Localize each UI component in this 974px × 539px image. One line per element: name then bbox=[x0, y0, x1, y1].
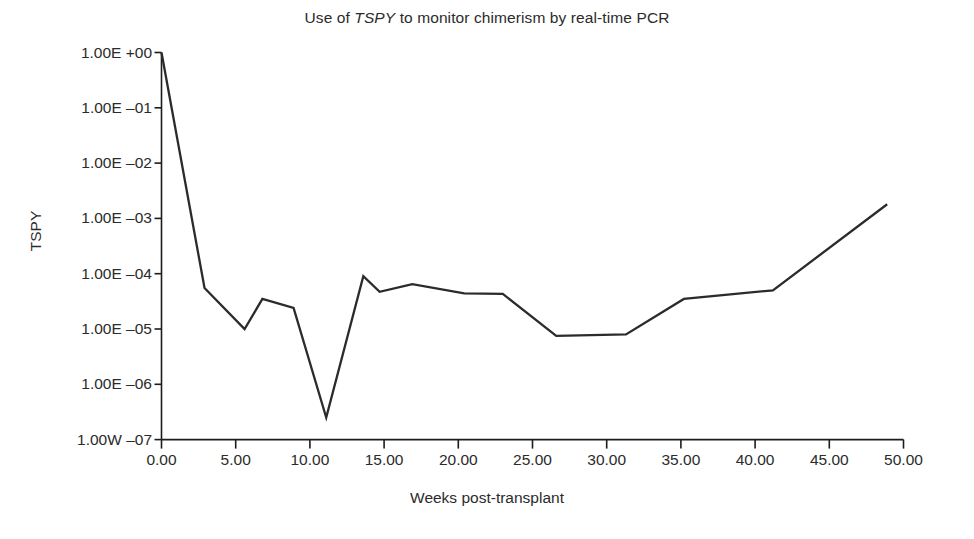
x-axis-tick-label: 50.00 bbox=[884, 451, 923, 469]
x-axis-tick-label: 40.00 bbox=[736, 451, 775, 469]
x-axis-title: Weeks post-transplant bbox=[0, 489, 974, 507]
x-axis-tick-label: 15.00 bbox=[365, 451, 404, 469]
figure-root: Use of TSPY to monitor chimerism by real… bbox=[0, 0, 974, 539]
x-axis-tick-label: 0.00 bbox=[146, 451, 176, 469]
y-axis-title: TSPY bbox=[27, 181, 45, 281]
x-axis-tick-label: 20.00 bbox=[439, 451, 478, 469]
x-axis-tick-label: 5.00 bbox=[221, 451, 251, 469]
x-axis-tick-label: 35.00 bbox=[661, 451, 700, 469]
x-axis-tick-label: 45.00 bbox=[810, 451, 849, 469]
x-axis-tick-labels: 0.005.0010.0015.0020.0025.0030.0035.0040… bbox=[0, 0, 974, 539]
x-axis-tick-label: 30.00 bbox=[587, 451, 626, 469]
x-axis-tick-label: 25.00 bbox=[513, 451, 552, 469]
x-axis-tick-label: 10.00 bbox=[290, 451, 329, 469]
